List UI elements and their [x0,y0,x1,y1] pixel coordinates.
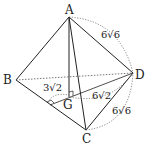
label-G: G [63,98,73,112]
label-C: C [82,132,91,146]
label-D: D [135,68,145,82]
edge-CD [86,73,133,130]
tetrahedron-diagram: A B C D G 6√6 6√6 3√2 6√2 [0,0,150,146]
label-B: B [3,73,12,87]
length-AD: 6√6 [101,29,120,40]
edge-BD-hidden [16,73,133,80]
length-MG: 3√2 [43,82,62,93]
edge-AB [16,17,69,80]
right-angle-marker-G [69,91,73,96]
label-A: A [64,3,74,17]
length-CD: 6√6 [112,105,131,116]
length-GD: 6√2 [92,90,111,101]
edge-AC [69,17,86,130]
